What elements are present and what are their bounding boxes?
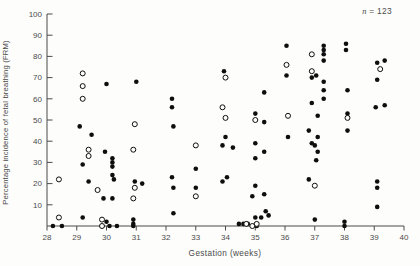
data-point-filled <box>104 82 109 87</box>
data-point-filled <box>60 224 65 229</box>
x-tick-label: 38 <box>340 233 349 242</box>
data-point-filled <box>263 209 268 214</box>
y-tick-label: 10 <box>33 201 42 210</box>
data-point-filled <box>107 224 112 229</box>
x-tick-label: 28 <box>43 233 52 242</box>
y-tick-label: 60 <box>33 95 42 104</box>
data-point-filled <box>262 90 267 95</box>
data-point-filled <box>321 97 326 102</box>
data-point-filled <box>345 88 350 93</box>
data-point-filled <box>315 150 320 155</box>
data-point-open <box>193 194 198 199</box>
x-tick-label: 36 <box>281 233 290 242</box>
data-point-filled <box>171 124 176 129</box>
x-tick-label: 39 <box>370 233 379 242</box>
data-point-filled <box>253 215 258 220</box>
data-point-filled <box>342 224 347 229</box>
data-point-filled <box>307 177 312 182</box>
data-point-filled <box>101 196 106 201</box>
data-point-filled <box>284 44 289 49</box>
data-point-open <box>95 188 100 193</box>
data-point-filled <box>321 52 326 57</box>
data-point-open <box>100 217 105 222</box>
data-point-filled <box>171 211 176 216</box>
data-point-filled <box>110 173 115 178</box>
data-point-filled <box>321 58 326 63</box>
x-tick-label: 32 <box>162 233 171 242</box>
data-point-filled <box>131 224 136 229</box>
data-point-filled <box>250 194 255 199</box>
data-point-open <box>86 147 91 152</box>
data-point-filled <box>253 111 258 116</box>
data-point-open <box>244 221 249 226</box>
data-point-filled <box>51 224 56 229</box>
x-tick-label: 37 <box>310 233 319 242</box>
sample-size-annotation: n = 123 <box>362 6 392 16</box>
data-point-open <box>309 52 314 57</box>
data-point-filled <box>171 186 176 191</box>
data-point-filled <box>262 120 267 125</box>
data-point-filled <box>286 135 291 140</box>
y-tick-label: 90 <box>33 31 42 40</box>
data-point-filled <box>110 196 115 201</box>
data-point-filled <box>110 164 115 169</box>
data-point-filled <box>375 205 380 210</box>
data-point-filled <box>373 105 378 110</box>
data-point-filled <box>112 177 117 182</box>
y-tick-label: 80 <box>33 52 42 61</box>
data-point-filled <box>342 220 347 225</box>
data-point-filled <box>225 175 230 180</box>
data-point-filled <box>262 192 267 197</box>
data-point-open <box>193 143 198 148</box>
data-point-filled <box>131 217 136 222</box>
data-point-filled <box>110 160 115 165</box>
data-point-open <box>132 185 137 190</box>
data-point-open <box>56 215 61 220</box>
data-point-filled <box>86 179 91 184</box>
data-point-filled <box>231 145 236 150</box>
data-point-open <box>132 122 137 127</box>
data-point-open <box>80 84 85 89</box>
data-point-filled <box>262 150 267 155</box>
data-point-filled <box>223 135 228 140</box>
data-point-open <box>56 177 61 182</box>
data-point-open <box>254 221 259 226</box>
data-point-filled <box>313 217 318 222</box>
x-tick-label: 30 <box>102 233 111 242</box>
data-point-filled <box>310 101 315 106</box>
n-value: = 123 <box>367 6 392 16</box>
data-point-filled <box>103 150 108 155</box>
y-tick-label: 70 <box>33 73 42 82</box>
data-point-filled <box>80 215 85 220</box>
data-point-filled <box>194 186 199 191</box>
x-tick-label: 40 <box>400 233 409 242</box>
data-point-filled <box>321 80 326 85</box>
y-tick-label: 50 <box>33 116 42 125</box>
data-point-filled <box>140 181 145 186</box>
data-point-filled <box>80 162 85 167</box>
data-point-filled <box>220 143 225 148</box>
data-point-filled <box>314 73 319 78</box>
data-point-open <box>220 105 225 110</box>
data-point-open <box>223 75 228 80</box>
x-tick-label: 34 <box>221 233 230 242</box>
scatter-figure: 1020304050607080901002829303132333435363… <box>0 0 420 266</box>
x-tick-label: 29 <box>72 233 81 242</box>
data-point-filled <box>321 88 326 93</box>
y-axis-title: Percentage incidence of fetal breathing … <box>1 10 12 236</box>
data-point-open <box>131 147 136 152</box>
data-point-filled <box>313 143 318 148</box>
data-point-open <box>86 154 91 159</box>
data-point-filled <box>266 213 271 218</box>
scatter-plot: 1020304050607080901002829303132333435363… <box>0 0 420 266</box>
data-point-filled <box>253 156 258 161</box>
data-point-filled <box>259 215 264 220</box>
data-point-filled <box>315 135 320 140</box>
data-point-filled <box>133 179 138 184</box>
data-point-filled <box>222 69 227 74</box>
data-point-filled <box>170 105 175 110</box>
data-point-open <box>253 118 258 123</box>
data-point-filled <box>344 41 349 46</box>
data-point-filled <box>194 167 199 172</box>
data-point-filled <box>314 158 319 163</box>
